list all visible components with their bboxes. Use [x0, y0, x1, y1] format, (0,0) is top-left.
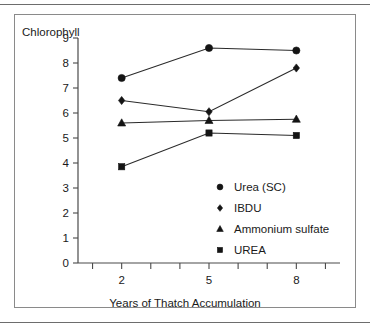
series-line — [122, 48, 297, 78]
x-axis-title: Years of Thatch Accumulation — [0, 297, 370, 309]
legend: Urea (SC)IBDUAmmonium sulfateUREA — [213, 178, 353, 262]
legend-item-label: UREA — [234, 243, 266, 257]
x-tick-label: 2 — [118, 274, 124, 286]
y-axis: 0123456789 — [63, 32, 78, 269]
data-point-marker — [118, 74, 125, 81]
data-point-marker — [205, 44, 212, 51]
data-series — [119, 130, 300, 170]
x-tick-label: 5 — [206, 274, 212, 286]
y-tick-label: 0 — [63, 257, 69, 269]
data-point-marker — [293, 132, 299, 138]
legend-item-label: IBDU — [234, 201, 261, 215]
y-tick-label: 1 — [63, 232, 69, 244]
x-tick-label: 8 — [293, 274, 299, 286]
series-line — [122, 68, 297, 112]
legend-item-label: Urea (SC) — [234, 180, 286, 194]
y-tick-label: 6 — [63, 107, 69, 119]
legend-item: Urea (SC) — [213, 178, 353, 196]
data-point-marker — [206, 108, 212, 116]
data-point-marker — [293, 64, 299, 72]
data-point-marker — [119, 164, 125, 170]
y-tick-label: 4 — [63, 157, 70, 169]
square-marker-icon — [213, 243, 227, 257]
x-axis: 258 — [78, 263, 340, 286]
y-tick-label: 5 — [63, 132, 69, 144]
data-point-marker — [293, 47, 300, 54]
chart-canvas: 0123456789 258 — [0, 0, 370, 331]
y-tick-label: 7 — [63, 82, 69, 94]
legend-item: UREA — [213, 241, 353, 259]
legend-item: Ammonium sulfate — [213, 220, 353, 238]
figure: Chlorophyll 0123456789 258 Years of That… — [0, 0, 370, 331]
y-tick-label: 8 — [63, 57, 69, 69]
data-series — [118, 115, 301, 126]
data-series-group — [118, 44, 301, 169]
data-series — [118, 44, 300, 81]
series-line — [122, 133, 297, 167]
legend-item-label: Ammonium sulfate — [234, 222, 329, 236]
data-series — [118, 64, 299, 116]
circle-marker-icon — [213, 180, 227, 194]
diamond-marker-icon — [213, 201, 227, 215]
legend-item: IBDU — [213, 199, 353, 217]
data-point-marker — [118, 96, 124, 104]
y-tick-label: 3 — [63, 182, 69, 194]
triangle-marker-icon — [213, 222, 227, 236]
data-point-marker — [292, 115, 300, 122]
y-tick-label: 2 — [63, 207, 69, 219]
y-tick-label: 9 — [63, 32, 69, 44]
data-point-marker — [206, 130, 212, 136]
